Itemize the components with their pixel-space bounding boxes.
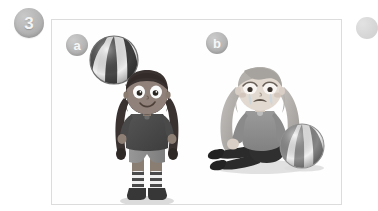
beach-ball-ground-icon [278, 120, 330, 172]
exercise-number-label: 3 [24, 15, 33, 32]
happy-girl-figure [101, 68, 193, 204]
sub-panel-label-b-text: b [213, 37, 221, 50]
sub-panel-label-a-text: a [73, 39, 80, 52]
sub-panel-label-a: a [66, 34, 88, 56]
next-exercise-badge-partial [356, 17, 378, 39]
illustration-panel-inner: a b [52, 20, 341, 204]
exercise-number-badge: 3 [14, 8, 44, 38]
illustration-panel: a b [51, 19, 342, 205]
sub-panel-label-b: b [206, 32, 228, 54]
